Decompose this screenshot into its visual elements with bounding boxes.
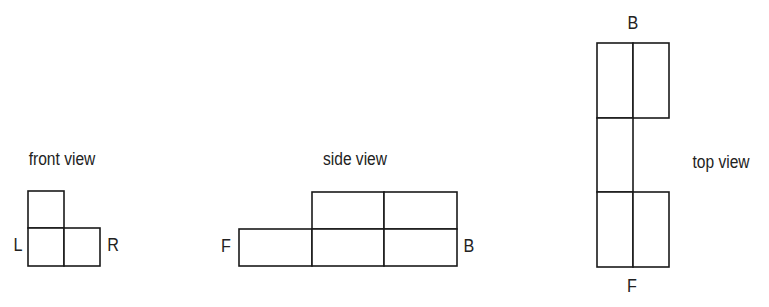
front-view-title: front view <box>29 148 96 170</box>
side-view: side view F B <box>221 148 474 266</box>
top-view-top-label: B <box>628 12 639 34</box>
front-cell-r2c2 <box>64 228 100 266</box>
front-left-label: L <box>14 234 23 256</box>
front-view: front view L R <box>14 148 119 266</box>
top-cell-r1c2 <box>633 43 669 118</box>
front-right-label: R <box>107 234 119 256</box>
top-cell-r1c1 <box>597 43 633 118</box>
side-cell-r2c2 <box>312 229 384 266</box>
top-cell-r3c1 <box>597 192 633 267</box>
top-view: B F top view <box>597 12 750 297</box>
side-cell-r1c3 <box>384 192 457 229</box>
side-cell-r2c3 <box>384 229 457 266</box>
top-view-bottom-label: F <box>627 275 637 297</box>
front-cell-r2c1 <box>28 228 64 266</box>
side-right-label: B <box>464 235 475 257</box>
top-view-title: top view <box>692 151 750 173</box>
side-cell-r1c2 <box>312 192 384 229</box>
side-cell-r2c1 <box>239 229 312 266</box>
side-view-title: side view <box>323 148 387 170</box>
top-cell-r3c2 <box>633 192 669 267</box>
side-left-label: F <box>221 235 231 257</box>
front-cell-r1c1 <box>28 191 64 228</box>
top-cell-r2c1 <box>597 118 633 192</box>
orthographic-views-diagram: front view L R side view F B B F top vie… <box>0 0 769 307</box>
